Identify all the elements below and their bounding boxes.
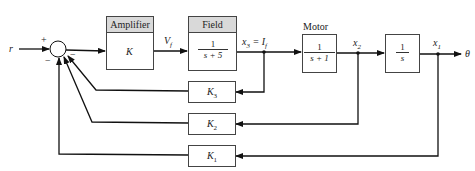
output-label-theta: θ (465, 49, 470, 59)
field-header: Field (188, 16, 237, 33)
integrator-transfer-function: 1 s (396, 42, 409, 63)
feedback-gain-k1: K1 (188, 145, 236, 167)
sum-sign-minus-2: − (70, 50, 76, 60)
feedback-gain-k2: K2 (188, 113, 236, 135)
diagram-wiring (0, 0, 475, 171)
feedback-gain-k3: K3 (188, 81, 236, 103)
signal-x2: x2 (353, 38, 361, 52)
signal-vf: Vf (164, 36, 172, 50)
amplifier-header: Amplifier (106, 16, 154, 33)
motor-transfer-function: 1 s + 1 (304, 42, 335, 63)
signal-x3: x3 = If (242, 37, 267, 51)
sum-sign-minus: − (45, 56, 51, 66)
amplifier-gain: K (126, 47, 133, 57)
field-transfer-function: 1 s + 5 (198, 39, 228, 60)
signal-x1: x1 (433, 38, 441, 52)
motor-header: Motor (303, 22, 328, 32)
input-label-r: r (9, 44, 13, 54)
sum-sign-plus: + (41, 35, 47, 45)
